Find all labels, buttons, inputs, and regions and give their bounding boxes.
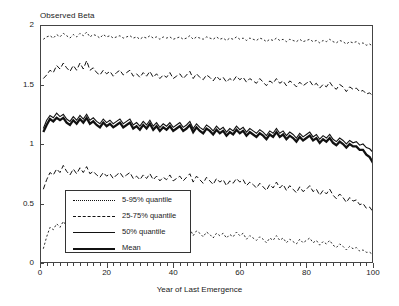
x-tick-label: 20 [92,268,122,277]
x-tick-mark [187,263,188,266]
legend-swatch [73,211,115,221]
x-tick-mark [160,263,161,266]
x-tick-label: 60 [225,268,255,277]
x-tick-mark [120,263,121,266]
x-tick-mark [147,263,148,266]
x-tick-mark [266,263,267,266]
x-tick-mark [207,263,208,266]
y-tick-mark [40,25,44,26]
x-tick-mark [200,263,201,266]
y-tick-label: 0.5 [6,199,34,208]
x-axis-label: Year of Last Emergence [0,285,399,294]
legend-label: Mean [122,243,141,252]
x-tick-mark [47,263,48,266]
x-tick-mark [353,263,354,266]
legend-label: 50% quantile [122,227,165,236]
x-tick-mark [293,263,294,266]
x-tick-mark [73,263,74,266]
legend-item: Mean [66,240,190,255]
legend-item: 5-95% quantile [66,192,190,207]
x-tick-mark [320,263,321,266]
legend-label: 25-75% quantile [122,211,176,220]
x-tick-mark [153,263,154,266]
x-tick-mark [226,263,227,266]
x-tick-mark [213,263,214,266]
legend-item: 50% quantile [66,224,190,239]
chart-figure: Observed Beta 00.511.52 020406080100 Yea… [0,0,399,306]
x-tick-label: 80 [291,268,321,277]
x-tick-mark [133,263,134,266]
y-tick-mark [40,85,44,86]
x-tick-mark [233,263,234,266]
x-tick-mark [127,263,128,266]
x-tick-mark [360,263,361,266]
x-tick-mark [286,263,287,266]
x-tick-mark [260,263,261,266]
legend-label: 5-95% quantile [122,195,172,204]
x-tick-mark [280,263,281,266]
x-tick-mark [340,263,341,266]
x-tick-label: 40 [158,268,188,277]
x-tick-mark [180,263,181,266]
x-tick-mark [60,263,61,266]
x-tick-mark [140,263,141,266]
legend-item: 25-75% quantile [66,208,190,223]
x-tick-label: 0 [25,268,55,277]
x-tick-mark [253,263,254,266]
y-tick-label: 0 [6,258,34,267]
x-tick-mark [167,263,168,266]
x-tick-mark [333,263,334,266]
y-tick-mark [40,144,44,145]
x-tick-mark [300,263,301,266]
y-tick-label: 1 [6,139,34,148]
x-tick-mark [87,263,88,266]
x-tick-mark [313,263,314,266]
legend-swatch [73,227,115,237]
x-tick-mark [67,263,68,266]
chart-legend: 5-95% quantile25-75% quantile50% quantil… [65,190,191,253]
x-tick-mark [113,263,114,266]
y-tick-label: 1.5 [6,80,34,89]
y-tick-label: 2 [6,20,34,29]
x-tick-mark [53,263,54,266]
y-tick-mark [40,204,44,205]
chart-title: Observed Beta [40,11,95,20]
x-tick-mark [273,263,274,266]
x-tick-mark [220,263,221,266]
x-tick-mark [346,263,347,266]
x-tick-mark [193,263,194,266]
legend-swatch [73,195,115,205]
x-tick-mark [366,263,367,266]
x-tick-mark [100,263,101,266]
x-tick-mark [80,263,81,266]
x-tick-label: 100 [358,268,388,277]
x-tick-mark [246,263,247,266]
x-tick-mark [93,263,94,266]
legend-swatch [73,243,115,253]
x-tick-mark [326,263,327,266]
